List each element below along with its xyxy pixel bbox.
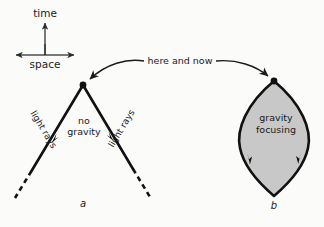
gravity-focusing-region — [239, 81, 309, 196]
panel-a-caption: a — [80, 198, 86, 209]
light-rays-label-left: light rays — [28, 109, 58, 150]
here-and-now-label: here and now — [148, 55, 213, 66]
gravity-focusing-label-line1: gravity — [259, 112, 293, 123]
time-axis-label: time — [33, 7, 57, 19]
here-and-now-leader-left — [90, 60, 144, 79]
panel-b-caption: b — [271, 200, 277, 211]
no-gravity-label-line2: gravity — [67, 126, 101, 137]
axes-group: time space — [16, 7, 74, 70]
space-axis-label: space — [30, 58, 61, 70]
panel-a-vertex-dot — [80, 82, 87, 89]
diagram-canvas: time space light rays light rays no grav… — [0, 0, 324, 227]
here-and-now-annotation: here and now — [90, 55, 268, 79]
light-ray-left-dashed — [15, 171, 32, 198]
no-gravity-label-line1: no — [78, 115, 90, 126]
light-ray-right-dashed — [133, 169, 150, 197]
gravity-focusing-label-line2: focusing — [256, 124, 296, 135]
panel-b-group: gravity focusing b — [239, 78, 309, 211]
light-rays-label-right: light rays — [106, 108, 136, 149]
panel-a-group: light rays light rays no gravity a — [15, 82, 150, 209]
panel-b-apex-dot — [271, 78, 278, 85]
spacetime-diagram: time space light rays light rays no grav… — [0, 0, 324, 227]
here-and-now-leader-right — [216, 61, 268, 76]
